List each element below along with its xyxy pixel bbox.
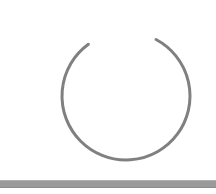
bottom-status-bar xyxy=(0,180,216,188)
bottom-bar-underlay xyxy=(0,188,216,194)
loading-spinner-icon xyxy=(0,0,216,180)
bottom-bar-highlight xyxy=(0,180,216,181)
spinner-arc-path xyxy=(62,39,190,160)
app-root: Loading xyxy=(0,0,216,194)
loading-spinner-region: Loading xyxy=(0,0,216,180)
